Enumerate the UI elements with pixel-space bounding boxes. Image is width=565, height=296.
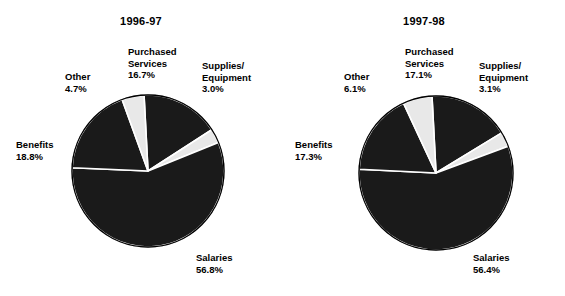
pie-slice-label-value: 3.0% — [202, 83, 251, 95]
pie-slice-label-name: Salaries — [196, 252, 232, 264]
pie-slice-label: Benefits18.8% — [16, 139, 53, 162]
chart-panel-1996-97: 1996-97 PurchasedServices16.7%Supplies/E… — [0, 0, 282, 296]
pie-chart-figure: 1996-97 PurchasedServices16.7%Supplies/E… — [0, 0, 565, 296]
pie-slice-label: PurchasedServices16.7% — [128, 46, 177, 81]
pie-slice-label-value: 4.7% — [65, 83, 90, 95]
pie-slice-label: PurchasedServices17.1% — [405, 46, 454, 81]
pie-slice-label: Benefits17.3% — [295, 139, 332, 162]
pie-slice-label-name: Purchased — [405, 46, 454, 58]
pie-slice-label-name: Purchased — [128, 46, 177, 58]
pie-slice-label-name: Benefits — [16, 139, 53, 151]
pie-slice-label-value: 6.1% — [344, 83, 369, 95]
pie-slice-label-name: Supplies/ — [479, 60, 528, 72]
chart-panel-1997-98: 1997-98 PurchasedServices17.1%Supplies/E… — [283, 0, 565, 296]
pie-slice-label: Other6.1% — [344, 71, 369, 94]
pie-slice-label-name: Benefits — [295, 139, 332, 151]
pie-slice-label-name: Equipment — [202, 72, 251, 84]
pie-slice-label: Other4.7% — [65, 71, 90, 94]
pie-slice-label-value: 56.4% — [473, 264, 509, 276]
pie-slice-label-name: Supplies/ — [202, 60, 251, 72]
pie-slice-label-value: 17.1% — [405, 69, 454, 81]
pie-slice-label: Supplies/Equipment3.0% — [202, 60, 251, 95]
pie-slice-label-name: Other — [65, 71, 90, 83]
pie-slice-label-value: 17.3% — [295, 151, 332, 163]
pie-slice-label-value: 56.8% — [196, 264, 232, 276]
pie-slice-label: Salaries56.8% — [196, 252, 232, 275]
pie-slice-label: Salaries56.4% — [473, 252, 509, 275]
pie-slice-label: Supplies/Equipment3.1% — [479, 60, 528, 95]
pie-slice-label-value: 3.1% — [479, 83, 528, 95]
pie-slice-label-value: 18.8% — [16, 151, 53, 163]
pie-slice-label-name: Services — [128, 58, 177, 70]
pie-slice-label-name: Services — [405, 58, 454, 70]
pie-slice-label-name: Salaries — [473, 252, 509, 264]
pie-slice-label-value: 16.7% — [128, 69, 177, 81]
pie-slice-label-name: Equipment — [479, 72, 528, 84]
pie-slice-label-name: Other — [344, 71, 369, 83]
